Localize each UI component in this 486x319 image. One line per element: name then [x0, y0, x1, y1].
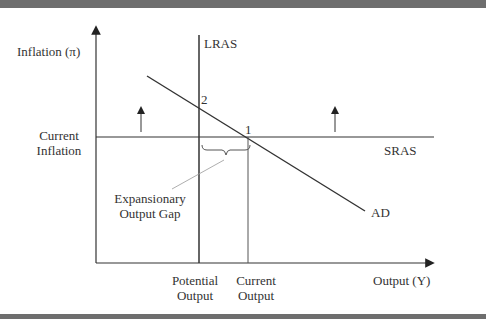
- ad-label: AD: [371, 205, 390, 220]
- current-output-label: Current Output: [228, 273, 284, 303]
- potential-output-line1: Potential: [160, 273, 230, 288]
- current-inflation-label: Current Inflation: [30, 128, 88, 158]
- output-gap-brace: [202, 145, 250, 155]
- current-inflation-line2: Inflation: [30, 143, 88, 158]
- current-output-line2: Output: [228, 288, 284, 303]
- sras-label: SRAS: [384, 143, 417, 158]
- current-output-line1: Current: [228, 273, 284, 288]
- potential-output-label: Potential Output: [160, 273, 230, 303]
- annotation-leader-line: [172, 160, 224, 189]
- point-2-label: 2: [201, 92, 208, 107]
- x-axis-label: Output (Y): [373, 273, 430, 288]
- expansionary-gap-annotation: Expansionary Output Gap: [108, 191, 192, 221]
- annotation-line1: Expansionary: [108, 191, 192, 206]
- annotation-line2: Output Gap: [108, 206, 192, 221]
- lras-label: LRAS: [204, 36, 237, 51]
- potential-output-line2: Output: [160, 288, 230, 303]
- y-axis-label: Inflation (π): [17, 44, 80, 59]
- current-inflation-line1: Current: [30, 128, 88, 143]
- point-1-label: 1: [245, 122, 252, 137]
